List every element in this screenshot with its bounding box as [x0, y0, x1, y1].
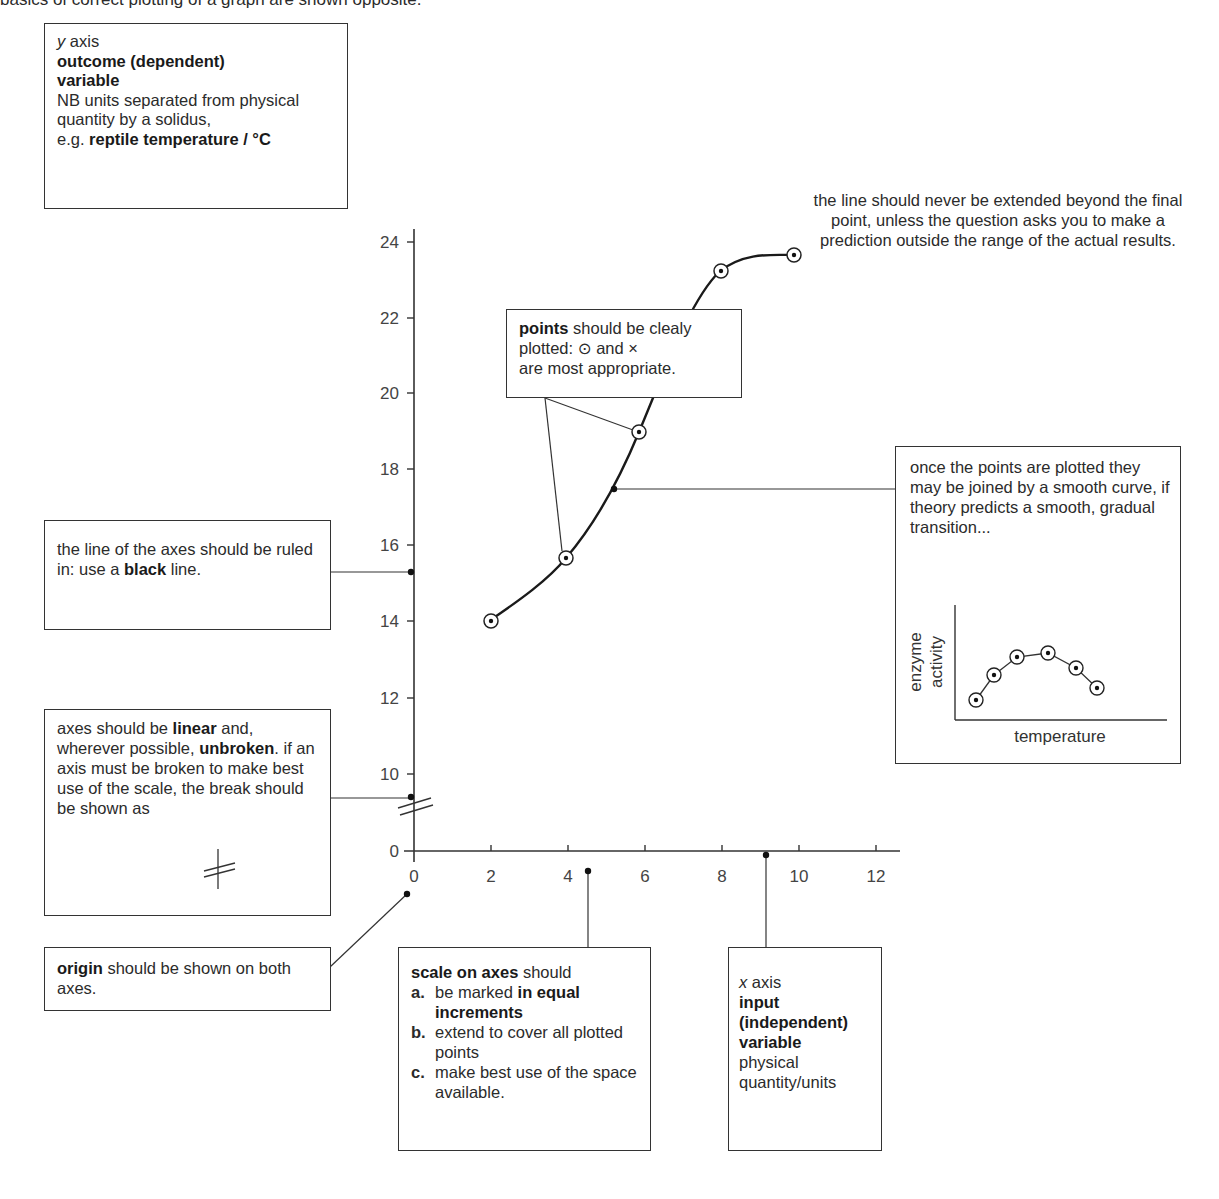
scale-item-c: c.make best use of the space available.: [411, 1062, 638, 1102]
svg-text:16: 16: [380, 536, 399, 555]
svg-text:4: 4: [563, 867, 572, 886]
pointer-dots: [404, 486, 769, 897]
point-marker-icon: [632, 425, 646, 439]
y-axis-annotation: y axis outcome (dependent) variable NB u…: [44, 23, 348, 209]
svg-text:14: 14: [380, 612, 399, 631]
y-tick-labels: 24 22 20 18 16 14 12 10 0: [380, 233, 399, 861]
svg-text:12: 12: [380, 689, 399, 708]
x-tick-labels: 0 2 4 6 8 10 12: [409, 867, 885, 886]
svg-text:24: 24: [380, 233, 399, 252]
origin-annotation: origin should be shown on both axes.: [44, 947, 331, 1011]
svg-text:20: 20: [380, 384, 399, 403]
svg-text:12: 12: [867, 867, 886, 886]
scale-item-a: a.be marked in equal increments: [411, 982, 638, 1022]
scale-item-b: b.extend to cover all plotted points: [411, 1022, 638, 1062]
point-marker-icon: [559, 551, 573, 565]
y-ticks: [407, 242, 414, 774]
svg-text:10: 10: [380, 765, 399, 784]
linear-axes-annotation: axes should be linear and, wherever poss…: [44, 709, 331, 916]
svg-text:10: 10: [790, 867, 809, 886]
scale-annotation: scale on axes should a.be marked in equa…: [398, 947, 651, 1151]
svg-text:22: 22: [380, 309, 399, 328]
svg-text:2: 2: [486, 867, 495, 886]
line-extension-annotation: the line should never be extended beyond…: [812, 190, 1184, 250]
svg-text:0: 0: [409, 867, 418, 886]
x-axis-annotation: x axis input (independent) variable phys…: [728, 947, 882, 1151]
axes-line-annotation: the line of the axes should be ruled in:…: [44, 520, 331, 630]
data-points: [484, 248, 801, 628]
circled-dot-icon: ⊙: [578, 339, 592, 357]
points-annotation: points should be clealy plotted: ⊙ and ×…: [506, 309, 742, 398]
svg-text:6: 6: [640, 867, 649, 886]
point-marker-icon: [714, 264, 728, 278]
point-marker-icon: [787, 248, 801, 262]
x-ticks: [491, 845, 876, 851]
smooth-curve-annotation: once the points are plotted they may be …: [895, 446, 1181, 764]
svg-text:8: 8: [717, 867, 726, 886]
svg-text:18: 18: [380, 460, 399, 479]
point-marker-icon: [484, 614, 498, 628]
axis-break-icon: [398, 798, 433, 815]
axis-break-icon: [200, 847, 240, 891]
svg-text:0: 0: [390, 842, 399, 861]
